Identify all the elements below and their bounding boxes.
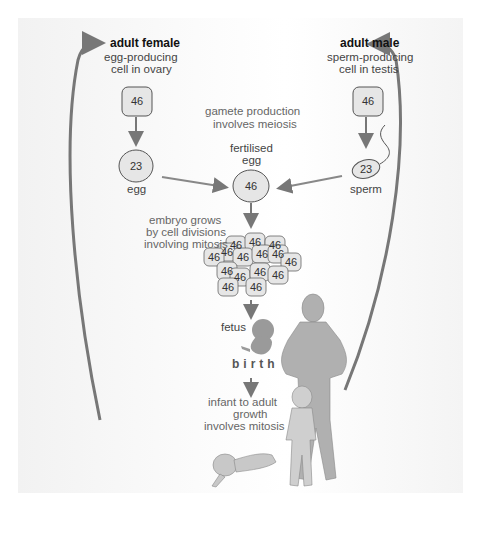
meiosis-note-1: gamete production xyxy=(205,105,300,117)
svg-text:23: 23 xyxy=(130,160,142,172)
zygote-cell: 46 xyxy=(233,170,269,202)
female-title: adult female xyxy=(110,37,180,49)
svg-text:46: 46 xyxy=(131,95,143,107)
svg-text:46: 46 xyxy=(285,256,297,268)
fetus-label: fetus xyxy=(221,321,246,333)
svg-text:46: 46 xyxy=(256,248,268,260)
male-title: adult male xyxy=(340,37,399,49)
birth-label: birth xyxy=(232,357,279,371)
female-subtitle-2: cell in ovary xyxy=(111,63,172,75)
egg-label: egg xyxy=(127,183,146,195)
svg-text:46: 46 xyxy=(221,265,233,277)
svg-text:46: 46 xyxy=(249,236,261,248)
egg-to-zygote-arrow xyxy=(162,177,225,187)
sperm-to-zygote-arrow xyxy=(280,176,342,188)
sperm-label: sperm xyxy=(350,183,382,195)
male-subtitle-1: sperm-producing xyxy=(327,51,413,63)
sperm-cell: 23 xyxy=(350,125,389,181)
egg-cell: 23 xyxy=(119,150,153,182)
female-diploid-cell: 46 xyxy=(122,87,152,116)
male-diploid-cell: 46 xyxy=(353,87,383,116)
life-cycle-diagram: 46 23 46 23 46 xyxy=(0,0,477,533)
svg-text:46: 46 xyxy=(208,251,220,263)
embryo-note-2: by cell divisions xyxy=(146,226,226,238)
zygote-label-2: egg xyxy=(242,154,261,166)
embryo-note-3: involving mitosis xyxy=(144,238,228,250)
female-cycle-arrow xyxy=(70,43,100,420)
svg-text:46: 46 xyxy=(254,266,266,278)
meiosis-note-2: involves meiosis xyxy=(213,118,297,130)
svg-text:46: 46 xyxy=(237,251,249,263)
growth-note-2: growth xyxy=(233,408,268,420)
svg-text:46: 46 xyxy=(272,269,284,281)
zygote-label-1: fertilised xyxy=(230,142,273,154)
male-subtitle-2: cell in testis xyxy=(339,63,398,75)
svg-text:46: 46 xyxy=(362,95,374,107)
embryo-note-1: embryo grows xyxy=(149,214,221,226)
svg-text:46: 46 xyxy=(222,281,234,293)
svg-text:46: 46 xyxy=(245,180,257,192)
growth-note-1: infant to adult xyxy=(208,396,277,408)
female-subtitle-1: egg-producing xyxy=(104,51,178,63)
infant-figure xyxy=(212,454,276,487)
svg-text:46: 46 xyxy=(250,281,262,293)
svg-text:46: 46 xyxy=(234,271,246,283)
svg-text:23: 23 xyxy=(360,163,372,175)
growth-note-3: involves mitosis xyxy=(204,420,285,432)
svg-text:46: 46 xyxy=(272,248,284,260)
